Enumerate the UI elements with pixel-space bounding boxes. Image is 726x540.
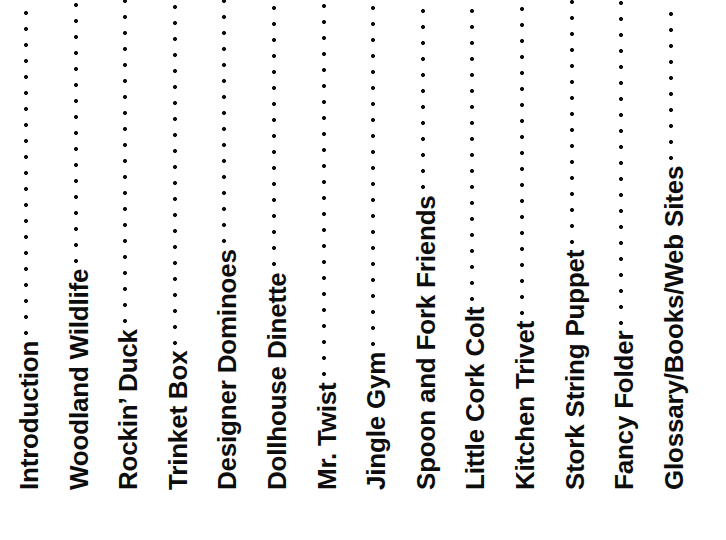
toc-entry-title: Trinket Box [161, 351, 195, 490]
toc-dot-leader [599, 0, 633, 325]
toc-entry[interactable]: Rockin’ Duck8 [103, 0, 153, 490]
toc-dot-leader [550, 0, 584, 244]
toc-entry[interactable]: Introduction4 [4, 0, 54, 490]
toc-dot-leader [4, 0, 38, 335]
toc-dot-leader [153, 0, 187, 345]
toc-entry[interactable]: Dollhouse Dinette14 [252, 0, 302, 490]
toc-page: Introduction4Woodland Wildlife6Rockin’ D… [0, 0, 726, 540]
toc-entry-title: Designer Dominoes [210, 249, 244, 490]
toc-dot-leader [450, 0, 484, 301]
toc-dot-leader [252, 0, 286, 266]
toc-entry-title: Introduction [12, 341, 46, 490]
toc-entry-title: Jingle Gym [359, 352, 393, 490]
toc-entry-title: Glossary/Books/Web Sites [657, 166, 691, 490]
toc-entry-title: Spoon and Fork Friends [409, 195, 443, 490]
toc-entry[interactable]: Kitchen Trivet26 [500, 0, 550, 490]
toc-entry[interactable]: Designer Dominoes12 [202, 0, 252, 490]
toc-dot-leader [351, 0, 385, 346]
toc-dot-leader [202, 0, 236, 243]
toc-entry-title: Mr. Twist [310, 382, 344, 490]
toc-dot-leader [54, 0, 88, 263]
toc-entry[interactable]: Jingle Gym20 [351, 0, 401, 490]
toc-dot-leader [500, 0, 534, 315]
toc-entry[interactable]: Mr. Twist18 [302, 0, 352, 490]
toc-entry[interactable]: Stork String Puppet28 [550, 0, 600, 490]
toc-entry[interactable]: Spoon and Fork Friends22 [401, 0, 451, 490]
toc-dot-leader [302, 0, 336, 376]
toc-entry-title: Woodland Wildlife [62, 269, 96, 490]
toc-entry[interactable]: Woodland Wildlife6 [54, 0, 104, 490]
toc-entry-title: Rockin’ Duck [111, 329, 145, 490]
toc-dot-leader [401, 0, 435, 189]
toc-dot-leader [649, 0, 683, 160]
toc-entry[interactable]: Glossary/Books/Web Sites32 [649, 0, 699, 490]
toc-entry[interactable]: Little Cork Colt24 [450, 0, 500, 490]
toc-entry-title: Fancy Folder [607, 331, 641, 490]
toc-entry-title: Little Cork Colt [458, 307, 492, 490]
toc-entry-title: Stork String Puppet [558, 250, 592, 490]
toc-dot-leader [103, 0, 137, 323]
toc-entry[interactable]: Fancy Folder30 [599, 0, 649, 490]
toc-entry-title: Dollhouse Dinette [260, 272, 294, 490]
toc-entry[interactable]: Trinket Box10 [153, 0, 203, 490]
toc-entry-title: Kitchen Trivet [508, 321, 542, 490]
